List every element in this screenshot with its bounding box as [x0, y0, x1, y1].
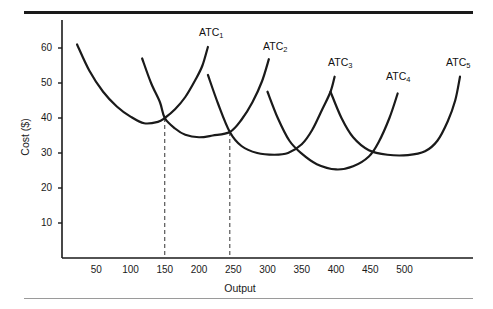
- axes-group: [62, 20, 473, 258]
- atc-curve-1: [77, 45, 208, 124]
- x-tick-label: 300: [253, 264, 283, 275]
- curve-label-subscript: 4: [406, 75, 410, 84]
- curve-label-atc-2: ATC2: [263, 40, 287, 52]
- y-tick-label: 60: [26, 42, 52, 53]
- x-tick-label: 250: [218, 264, 248, 275]
- atc-curves-group: [77, 45, 460, 170]
- atc-curve-2: [142, 59, 269, 138]
- x-tick-label: 450: [355, 264, 385, 275]
- curve-label-subscript: 3: [348, 61, 352, 70]
- curve-label-subscript: 5: [466, 61, 470, 70]
- figure-container: Cost ($) Output 102030405060501001502002…: [0, 0, 493, 309]
- curve-label-atc-5: ATC5: [446, 56, 470, 68]
- atc-curve-5: [331, 77, 460, 156]
- x-tick-label: 350: [287, 264, 317, 275]
- y-tick-label: 30: [26, 147, 52, 158]
- y-tick-label: 20: [26, 182, 52, 193]
- curve-label-text: ATC: [263, 40, 283, 52]
- x-tick-label: 200: [184, 264, 214, 275]
- dashed-guides-group: [165, 118, 230, 258]
- curve-label-text: ATC: [328, 56, 348, 68]
- curve-label-atc-3: ATC3: [328, 56, 352, 68]
- y-tick-label: 40: [26, 112, 52, 123]
- curve-label-atc-1: ATC1: [199, 26, 223, 38]
- x-tick-label: 50: [81, 264, 111, 275]
- curve-label-text: ATC: [199, 26, 219, 38]
- x-tick-label: 400: [321, 264, 351, 275]
- atc-curve-3: [208, 75, 335, 155]
- x-tick-label: 100: [116, 264, 146, 275]
- atc-curve-4: [268, 92, 398, 170]
- x-tick-label: 150: [150, 264, 180, 275]
- curve-label-text: ATC: [386, 70, 406, 82]
- curve-label-text: ATC: [446, 56, 466, 68]
- curve-label-atc-4: ATC4: [386, 70, 410, 82]
- y-tick-label: 50: [26, 77, 52, 88]
- x-axis-title: Output: [224, 282, 256, 294]
- x-tick-label: 500: [390, 264, 420, 275]
- y-tick-label: 10: [26, 217, 52, 228]
- x-axis-title-wrapper: Output: [200, 278, 280, 296]
- curve-label-subscript: 2: [283, 45, 287, 54]
- atc-curves-chart: [0, 0, 493, 309]
- curve-label-subscript: 1: [219, 31, 223, 40]
